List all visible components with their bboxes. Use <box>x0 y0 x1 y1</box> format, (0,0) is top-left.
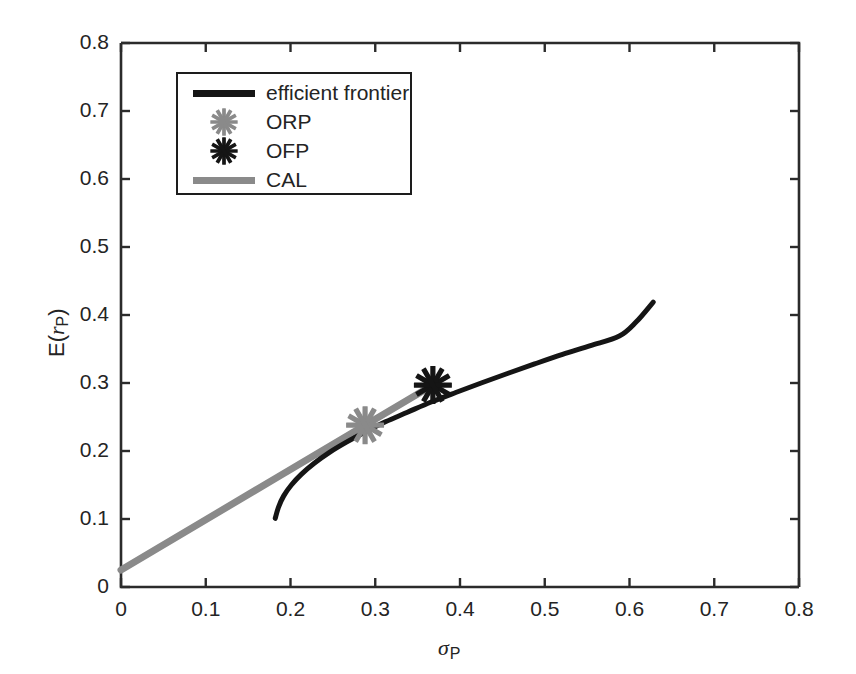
legend-asterisk-icon <box>209 107 239 137</box>
x-tick-label: 0.4 <box>425 597 495 621</box>
legend-item-cal[interactable]: CAL <box>178 165 410 195</box>
y-tick-label: 0.8 <box>47 30 109 54</box>
y-tick-label: 0.7 <box>47 98 109 122</box>
x-tick-label: 0.1 <box>171 597 241 621</box>
x-tick-label: 0.7 <box>679 597 749 621</box>
y-axis-title-prefix: E( <box>44 335 69 357</box>
legend-item-ofp[interactable]: OFP <box>178 136 410 166</box>
y-tick-label: 0.2 <box>47 438 109 462</box>
x-tick-label: 0.8 <box>764 597 834 621</box>
legend-item-label: ORP <box>266 110 312 134</box>
chart-figure: 00.10.20.30.40.50.60.70.8 00.10.20.30.40… <box>0 0 856 674</box>
legend-line-swatch <box>193 90 255 97</box>
legend-asterisk-icon <box>209 136 239 166</box>
y-axis-title: E(rP) <box>44 308 72 357</box>
y-tick-label: 0.1 <box>47 506 109 530</box>
y-axis-title-suffix: ) <box>44 308 69 315</box>
y-tick-label: 0 <box>47 574 109 598</box>
legend-swatch-line <box>188 177 260 184</box>
legend-item-label: efficient frontier <box>266 81 409 105</box>
legend-swatch-line <box>188 90 260 97</box>
legend-swatch-marker <box>188 107 260 137</box>
x-axis-title: σP <box>438 635 461 663</box>
x-tick-label: 0.3 <box>340 597 410 621</box>
legend-item-label: CAL <box>266 168 307 192</box>
series-line-cal <box>121 383 436 570</box>
x-tick-label: 0.2 <box>256 597 326 621</box>
x-axis-title-symbol: σ <box>438 635 449 660</box>
legend-item-efficient-frontier[interactable]: efficient frontier <box>178 78 410 108</box>
data-series-group <box>121 302 653 570</box>
legend-item-orp[interactable]: ORP <box>178 107 410 137</box>
x-tick-label: 0 <box>86 597 156 621</box>
y-tick-label: 0.5 <box>47 234 109 258</box>
series-line-efficient-frontier <box>275 302 653 518</box>
y-tick-label: 0.6 <box>47 166 109 190</box>
x-axis-title-subscript: P <box>450 645 461 662</box>
y-tick-label: 0.3 <box>47 370 109 394</box>
legend-swatch-marker <box>188 136 260 166</box>
x-tick-label: 0.5 <box>510 597 580 621</box>
plot-canvas <box>0 0 856 674</box>
y-axis-title-subscript: P <box>54 316 71 327</box>
legend-item-label: OFP <box>266 139 309 163</box>
legend-line-swatch <box>193 177 255 184</box>
x-tick-label: 0.6 <box>595 597 665 621</box>
legend: efficient frontierORPOFPCAL <box>176 72 412 195</box>
y-axis-title-var: r <box>44 326 69 335</box>
